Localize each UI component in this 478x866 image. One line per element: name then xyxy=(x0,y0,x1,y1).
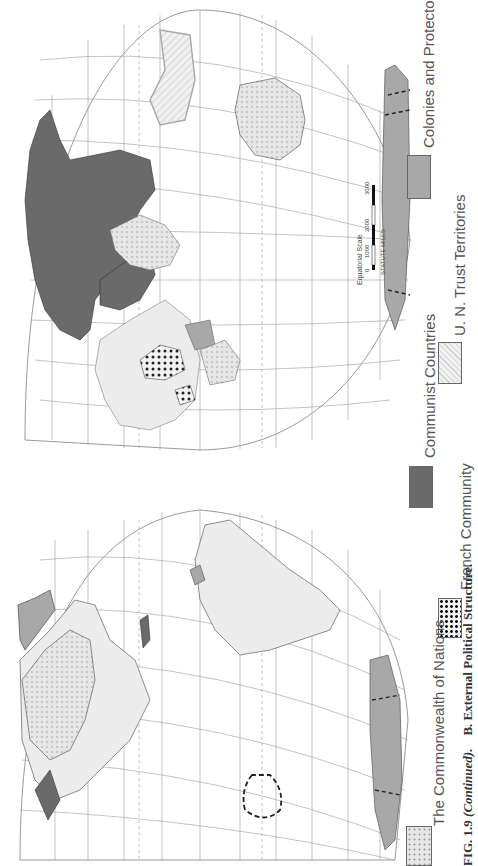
antarctica-colonies-east xyxy=(382,65,410,330)
scale-bar xyxy=(372,185,375,270)
caption-title: B. External Political Structure. xyxy=(460,564,475,736)
scale-tick-2000: 2000 xyxy=(364,219,370,232)
scale-tick-1000: 1000 xyxy=(364,245,370,258)
eastern-hemisphere-map xyxy=(25,10,410,450)
scale-tick-0: 0 xyxy=(364,269,370,272)
figure-page: Equatorial Scale STATUTE MILES 0 1000 20… xyxy=(0,0,478,866)
scale-tick-3000: 3000 xyxy=(364,182,370,195)
caption-number: FIG. 1.9 xyxy=(460,820,475,866)
figure-caption: FIG. 1.9 (Continued). B. External Politi… xyxy=(460,564,476,866)
legend-swatch-commonwealth xyxy=(406,826,432,866)
legend-label-commonwealth: The Commonwealth of Nations xyxy=(430,620,447,826)
legend-swatch-communist xyxy=(409,466,433,508)
legend-label-colonies: Colonies and Protectorates xyxy=(420,0,437,148)
hemisphere-maps xyxy=(0,0,478,866)
legend-swatch-un-trust xyxy=(438,342,462,384)
legend-label-un-trust: U. N. Trust Territories xyxy=(451,195,468,336)
scale-units: STATUTE MILES xyxy=(380,229,386,275)
scale-title: Equatorial Scale xyxy=(356,234,363,285)
legend-swatch-colonies xyxy=(407,155,431,199)
western-hemisphere-map xyxy=(18,510,408,860)
legend-label-communist: Communist Countries xyxy=(421,314,438,458)
caption-continued: (Continued). xyxy=(460,749,475,817)
